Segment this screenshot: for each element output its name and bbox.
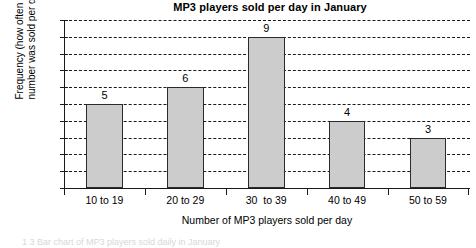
x-category-label: 20 to 29 bbox=[145, 194, 225, 206]
y-tick-mark bbox=[60, 138, 68, 139]
bar-value-label: 5 bbox=[84, 90, 124, 101]
y-tick-mark bbox=[60, 37, 68, 38]
bar-value-label: 3 bbox=[408, 124, 448, 135]
y-tick-mark bbox=[60, 20, 68, 21]
chart-title: MP3 players sold per day in January bbox=[64, 1, 476, 13]
x-category-label: 30 to 39 bbox=[226, 194, 306, 206]
y-axis-label-line-2: number was sold per day) bbox=[26, 0, 38, 100]
bar bbox=[86, 104, 123, 188]
y-tick-mark bbox=[60, 171, 68, 172]
x-axis-label: Number of MP3 players sold per day bbox=[64, 214, 470, 226]
y-tick-mark bbox=[60, 70, 68, 71]
x-category-label: 50 to 59 bbox=[388, 194, 468, 206]
plot-area: 01234567891056943 bbox=[64, 20, 470, 188]
bottom-caption: 1 3 Bar chart of MP3 players sold daily … bbox=[22, 238, 262, 247]
x-category-label: 40 to 49 bbox=[307, 194, 387, 206]
x-category-label: 10 to 19 bbox=[64, 194, 144, 206]
bar bbox=[410, 138, 447, 188]
bar-value-label: 6 bbox=[165, 73, 205, 84]
y-axis-label-line-1: Frequency (how often this bbox=[14, 0, 26, 100]
bar-value-label: 9 bbox=[246, 23, 286, 34]
y-tick-mark bbox=[60, 121, 68, 122]
y-tick-mark bbox=[60, 54, 68, 55]
y-tick-mark bbox=[60, 87, 68, 88]
bar bbox=[167, 87, 204, 188]
y-tick-mark bbox=[60, 104, 68, 105]
y-tick-mark bbox=[60, 154, 68, 155]
x-tick-mark bbox=[468, 188, 469, 195]
bar bbox=[329, 121, 366, 188]
bar-value-label: 4 bbox=[327, 107, 367, 118]
gridline bbox=[64, 20, 470, 21]
y-axis-label: Frequency (how often this number was sol… bbox=[9, 0, 43, 132]
bar-chart: MP3 players sold per day in January Freq… bbox=[0, 0, 476, 248]
bar bbox=[248, 37, 285, 188]
axis-baseline bbox=[64, 188, 470, 189]
